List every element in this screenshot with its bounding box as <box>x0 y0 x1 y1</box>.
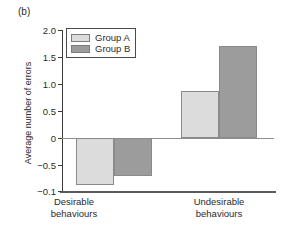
y-tick-label: 1.5 <box>43 52 56 63</box>
x-tick-label-desirable: Desirable behaviours <box>14 196 134 219</box>
legend-label-group-a: Group A <box>95 32 130 43</box>
bar-desirable-group-b <box>114 138 152 176</box>
x-tick-label-line1: Desirable <box>54 196 94 207</box>
legend: Group A Group B <box>66 28 136 58</box>
legend-entry-group-b: Group B <box>71 43 130 54</box>
y-tick-label: −0.1 <box>37 186 56 197</box>
y-tick-label: 0.5 <box>43 106 56 117</box>
legend-swatch-group-b <box>71 45 90 53</box>
legend-label-group-b: Group B <box>95 43 130 54</box>
y-axis-line <box>62 30 63 192</box>
y-tick-label: 1.0 <box>43 79 56 90</box>
x-axis-line <box>60 191 276 193</box>
y-tick-label: 2.0 <box>43 25 56 36</box>
legend-entry-group-a: Group A <box>71 32 130 43</box>
bar-undesirable-group-a <box>181 91 219 138</box>
y-tick-label: 0 <box>51 133 56 144</box>
y-tick-label: −0.5 <box>37 160 56 171</box>
y-axis-title: Average number of errors <box>23 38 33 188</box>
legend-swatch-group-a <box>71 34 90 42</box>
x-tick-label-undesirable: Undesirable behaviours <box>159 196 279 219</box>
panel-label: (b) <box>18 6 30 17</box>
bar-undesirable-group-b <box>219 46 257 138</box>
figure-panel: (b) Average number of errors 2.0 1.5 1.0… <box>0 0 287 233</box>
bar-desirable-group-a <box>76 138 114 185</box>
x-tick-label-line1: Undesirable <box>194 196 245 207</box>
x-tick-label-line2: behaviours <box>159 208 279 220</box>
x-tick-label-line2: behaviours <box>14 208 134 220</box>
